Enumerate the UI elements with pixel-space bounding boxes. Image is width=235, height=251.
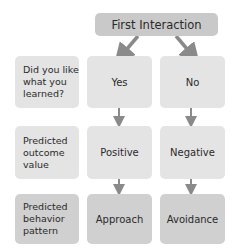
row-label-liked: Did you like what you learned? xyxy=(15,56,79,108)
avoidance-box: Avoidance xyxy=(160,194,225,244)
row-label-text: Predicted behavior pattern xyxy=(23,201,79,237)
approach-box: Approach xyxy=(87,194,152,244)
positive-box: Positive xyxy=(87,126,152,179)
no-box: No xyxy=(160,56,225,108)
first-interaction-box: First Interaction xyxy=(95,13,218,36)
yes-label: Yes xyxy=(111,77,127,88)
arrow-to-yes xyxy=(121,36,138,56)
arrow-to-no xyxy=(176,36,193,56)
avoidance-label: Avoidance xyxy=(167,214,219,225)
no-label: No xyxy=(186,77,200,88)
negative-label: Negative xyxy=(170,147,215,158)
row-label-text: Did you like what you learned? xyxy=(23,64,79,100)
positive-label: Positive xyxy=(100,147,139,158)
negative-box: Negative xyxy=(160,126,225,179)
approach-label: Approach xyxy=(96,214,144,225)
row-label-behavior: Predicted behavior pattern xyxy=(15,194,79,244)
first-interaction-label: First Interaction xyxy=(111,18,201,32)
row-label-outcome: Predicted outcome value xyxy=(15,126,79,179)
row-label-text: Predicted outcome value xyxy=(23,135,79,171)
yes-box: Yes xyxy=(87,56,152,108)
